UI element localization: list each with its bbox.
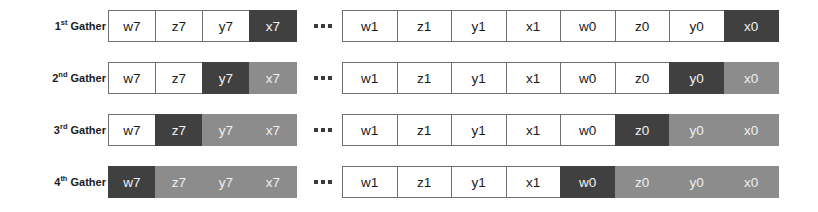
ellipsis-dot-icon (328, 76, 332, 80)
gather-cell: y7 (202, 166, 250, 198)
gather-row-label-word: Gather (71, 176, 106, 188)
gather-row-label-ordinal: rd (60, 122, 68, 131)
gather-row: 3rd Gatherw7z7y7x7w1z1y1x1w0z0y0x0 (0, 113, 818, 147)
gather-row: 4th Gatherw7z7y7x7w1z1y1x1w0z0y0x0 (0, 165, 818, 199)
gather-cell: x0 (724, 10, 780, 42)
ellipsis-dot-icon (321, 128, 325, 132)
gather-cell: x7 (249, 10, 297, 42)
gather-cell: z0 (615, 166, 671, 198)
gather-row-label-ordinal: th (60, 174, 67, 183)
gather-row-label-word: Gather (71, 124, 106, 136)
gather-cell: x7 (249, 62, 297, 94)
gather-cell: y1 (451, 62, 507, 94)
gather-row: 1st Gatherw7z7y7x7w1z1y1x1w0z0y0x0 (0, 9, 818, 43)
gather-cell: x0 (724, 166, 780, 198)
gather-cell: z1 (397, 166, 453, 198)
gather-cell: w1 (342, 114, 398, 146)
ellipsis-dot-icon (314, 24, 318, 28)
ellipsis-dot-icon (328, 180, 332, 184)
gather-cell: y1 (451, 166, 507, 198)
gather-cell: y1 (451, 10, 507, 42)
gather-cell: x0 (724, 62, 780, 94)
gather-cell: w7 (108, 62, 156, 94)
gather-cell: z7 (155, 114, 203, 146)
gather-row-label-ordinal: nd (58, 70, 67, 79)
gather-diagram: 1st Gatherw7z7y7x7w1z1y1x1w0z0y0x02nd Ga… (0, 0, 818, 212)
gather-cell: y0 (669, 114, 725, 146)
gather-cell: x1 (506, 114, 562, 146)
gather-cell: x1 (506, 62, 562, 94)
gather-row-label-word: Gather (71, 72, 106, 84)
gather-cell: w1 (342, 10, 398, 42)
gather-cell: w1 (342, 166, 398, 198)
ellipsis-separator-icon (306, 166, 340, 198)
gather-row-label: 2nd Gather (44, 61, 106, 95)
gather-cell: x1 (506, 10, 562, 42)
gather-cell: x7 (249, 114, 297, 146)
ellipsis-dot-icon (328, 128, 332, 132)
ellipsis-separator-icon (306, 114, 340, 146)
ellipsis-dot-icon (314, 128, 318, 132)
gather-cell: w7 (108, 166, 156, 198)
gather-cell: y0 (669, 166, 725, 198)
gather-cell: y7 (202, 114, 250, 146)
gather-row: 2nd Gatherw7z7y7x7w1z1y1x1w0z0y0x0 (0, 61, 818, 95)
gather-left-group: w7z7y7x7 (108, 166, 297, 198)
ellipsis-separator-icon (306, 10, 340, 42)
ellipsis-separator-icon (306, 62, 340, 94)
ellipsis-dot-icon (314, 180, 318, 184)
gather-row-label-ordinal: st (61, 18, 68, 27)
ellipsis-dot-icon (314, 76, 318, 80)
gather-row-label: 3rd Gather (44, 113, 106, 147)
gather-cell: z7 (155, 62, 203, 94)
gather-row-label: 4th Gather (44, 165, 106, 199)
gather-cell: z7 (155, 10, 203, 42)
gather-cell: z0 (615, 62, 671, 94)
ellipsis-dot-icon (321, 24, 325, 28)
gather-cell: z1 (397, 10, 453, 42)
gather-cell: x7 (249, 166, 297, 198)
gather-cell: y7 (202, 10, 250, 42)
gather-left-group: w7z7y7x7 (108, 10, 297, 42)
gather-cell: z7 (155, 166, 203, 198)
gather-cell: z1 (397, 114, 453, 146)
gather-cell: x0 (724, 114, 780, 146)
gather-cell: w7 (108, 114, 156, 146)
gather-cell: z0 (615, 114, 671, 146)
gather-cell: w0 (560, 114, 616, 146)
gather-cell: w0 (560, 62, 616, 94)
gather-cell: w7 (108, 10, 156, 42)
gather-right-group: w1z1y1x1w0z0y0x0 (342, 62, 779, 94)
gather-right-group: w1z1y1x1w0z0y0x0 (342, 166, 779, 198)
ellipsis-dot-icon (328, 24, 332, 28)
gather-cell: y1 (451, 114, 507, 146)
ellipsis-dot-icon (321, 180, 325, 184)
gather-row-label: 1st Gather (44, 9, 106, 43)
gather-cell: y0 (669, 10, 725, 42)
gather-cell: z0 (615, 10, 671, 42)
gather-right-group: w1z1y1x1w0z0y0x0 (342, 10, 779, 42)
gather-left-group: w7z7y7x7 (108, 114, 297, 146)
gather-cell: z1 (397, 62, 453, 94)
gather-right-group: w1z1y1x1w0z0y0x0 (342, 114, 779, 146)
gather-cell: w0 (560, 10, 616, 42)
gather-left-group: w7z7y7x7 (108, 62, 297, 94)
gather-cell: y7 (202, 62, 250, 94)
ellipsis-dot-icon (321, 76, 325, 80)
gather-cell: x1 (506, 166, 562, 198)
gather-cell: y0 (669, 62, 725, 94)
gather-cell: w1 (342, 62, 398, 94)
gather-cell: w0 (560, 166, 616, 198)
gather-row-label-word: Gather (71, 20, 106, 32)
